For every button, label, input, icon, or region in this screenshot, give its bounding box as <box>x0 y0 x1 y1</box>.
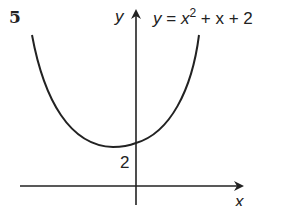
eq-x: x <box>180 9 190 28</box>
y-intercept-label: 2 <box>120 153 129 172</box>
graph: 5 y x 2 y = x2 + x + 2 <box>0 0 282 206</box>
y-axis-label: y <box>114 7 125 26</box>
parabola-curve <box>32 35 199 147</box>
equation-label: y = x2 + x + 2 <box>152 6 253 28</box>
eq-rest: + x + 2 <box>196 9 253 28</box>
x-axis-label: x <box>234 192 244 206</box>
question-number: 5 <box>9 7 21 27</box>
eq-equals: = <box>162 9 181 28</box>
